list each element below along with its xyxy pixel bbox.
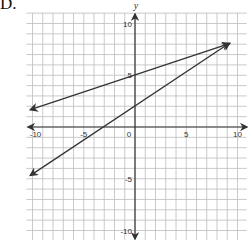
plotted-lines (31, 43, 230, 175)
svg-text:5: 5 (184, 130, 189, 139)
tick-labels: -10-50510105-5-10y (30, 0, 243, 236)
svg-text:y: y (133, 0, 139, 11)
svg-text:0: 0 (127, 130, 132, 139)
svg-text:-10: -10 (120, 227, 132, 236)
svg-text:10: 10 (233, 130, 242, 139)
coordinate-plane: -10-50510105-5-10y (0, 0, 250, 244)
line-1 (31, 44, 230, 110)
svg-text:10: 10 (123, 20, 132, 29)
axes (28, 14, 246, 239)
svg-text:-10: -10 (30, 130, 42, 139)
svg-text:-5: -5 (125, 175, 133, 184)
line-2 (31, 43, 230, 175)
